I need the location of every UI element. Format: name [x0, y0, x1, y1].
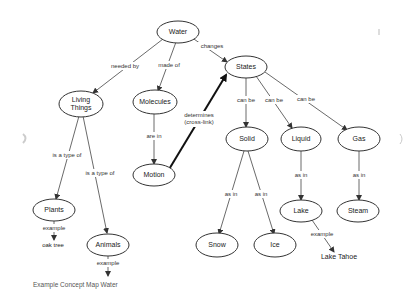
- label-type-of-plants: is a type of: [52, 152, 81, 158]
- label-can-be-solid: can be: [237, 97, 256, 103]
- node-lake-tahoe: Lake Tahoe: [321, 253, 357, 260]
- concept-map: needed by made of changes are in determi…: [0, 0, 404, 299]
- figure-caption: Example Concept Map Water: [33, 281, 118, 288]
- node-lake[interactable]: Lake: [280, 200, 322, 222]
- label-example-plants: example: [43, 225, 66, 231]
- scan-artifact-left: [23, 134, 26, 143]
- label-type-of-animals: is a type of: [85, 170, 114, 176]
- svg-text:Living: Living: [72, 96, 90, 104]
- svg-text:Liquid: Liquid: [292, 135, 311, 143]
- svg-text:Gas: Gas: [353, 135, 366, 142]
- node-living-things[interactable]: Living Things: [59, 91, 103, 117]
- svg-text:Snow: Snow: [208, 241, 226, 248]
- svg-text:Water: Water: [169, 28, 188, 35]
- svg-text:Plants: Plants: [44, 206, 64, 213]
- label-can-be-liquid: can be: [265, 97, 284, 103]
- label-are-in: are in: [146, 133, 161, 139]
- node-motion[interactable]: Motion: [133, 164, 175, 186]
- node-plants[interactable]: Plants: [33, 199, 75, 221]
- svg-text:Things: Things: [70, 104, 92, 112]
- svg-text:Lake: Lake: [293, 207, 308, 214]
- svg-text:Motion: Motion: [143, 171, 164, 178]
- label-as-in-ice: as in: [255, 191, 268, 197]
- label-needed-by: needed by: [111, 63, 139, 69]
- nodes: Water States Living Things Molecules Sol…: [33, 21, 380, 260]
- node-ice[interactable]: Ice: [254, 233, 296, 257]
- svg-text:Ice: Ice: [270, 241, 279, 248]
- svg-text:Solid: Solid: [239, 135, 255, 142]
- node-states[interactable]: States: [225, 56, 267, 78]
- label-can-be-gas: can be: [297, 96, 316, 102]
- node-snow[interactable]: Snow: [196, 233, 238, 257]
- svg-text:Steam: Steam: [348, 207, 368, 214]
- node-steam[interactable]: Steam: [337, 200, 379, 222]
- label-example-lake: example: [311, 231, 334, 237]
- label-as-in-snow: as in: [225, 191, 238, 197]
- label-determines: determines: [184, 112, 214, 118]
- label-cross-link: (cross-link): [184, 119, 213, 125]
- node-oak-tree: oak tree: [42, 242, 64, 248]
- node-water[interactable]: Water: [157, 21, 199, 43]
- node-solid[interactable]: Solid: [226, 127, 268, 151]
- node-animals[interactable]: Animals: [87, 234, 129, 256]
- label-changes: changes: [201, 43, 224, 49]
- svg-text:Animals: Animals: [96, 241, 121, 248]
- node-gas[interactable]: Gas: [338, 127, 380, 151]
- node-liquid[interactable]: Liquid: [281, 127, 321, 151]
- label-as-in-steam: as in: [353, 172, 366, 178]
- label-made-of: made of: [158, 62, 180, 68]
- label-as-in-lake: as in: [295, 172, 308, 178]
- label-example-animals: example: [97, 260, 120, 266]
- scan-artifact-right-2: [400, 134, 402, 144]
- node-molecules[interactable]: Molecules: [133, 90, 177, 114]
- svg-text:States: States: [236, 63, 256, 70]
- svg-text:Molecules: Molecules: [139, 98, 171, 105]
